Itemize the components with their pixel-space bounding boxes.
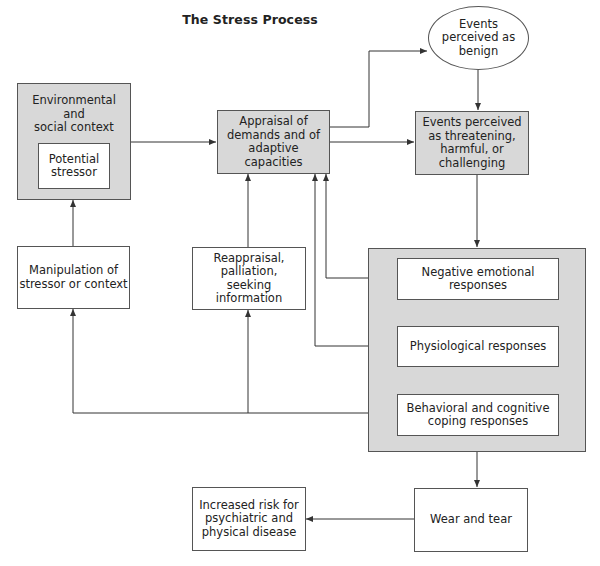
threatening-events-box: Events perceived as threatening, harmful… <box>415 111 529 175</box>
negative-emotional-responses-box: Negative emotional responses <box>397 258 559 300</box>
appraisal-box: Appraisal of demands and of adaptive cap… <box>217 110 330 174</box>
disease-risk-box: Increased risk for psychiatric and physi… <box>192 487 306 551</box>
benign-events-ellipse: Events perceived as benign <box>428 6 529 70</box>
environmental-context-label: Environmental and social context <box>18 94 130 135</box>
manipulation-box: Manipulation of stressor or context <box>17 246 130 309</box>
potential-stressor-box: Potential stressor <box>38 143 110 189</box>
wear-and-tear-box: Wear and tear <box>414 488 528 552</box>
behavioral-cognitive-coping-box: Behavioral and cognitive coping response… <box>397 394 559 436</box>
environmental-context-box: Environmental and social context Potenti… <box>17 83 131 200</box>
diagram-title: The Stress Process <box>0 12 500 27</box>
reappraisal-box: Reappraisal, palliation, seeking informa… <box>192 247 306 310</box>
physiological-responses-box: Physiological responses <box>397 326 559 367</box>
